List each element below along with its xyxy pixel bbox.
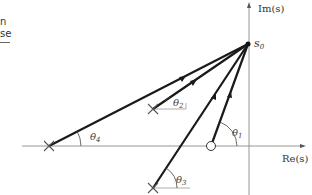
imaginary-axis — [247, 2, 251, 195]
theta3-label: θ3 — [176, 174, 187, 187]
real-axis-label: Re(s) — [282, 153, 308, 164]
theta4-arc — [77, 131, 81, 146]
vector-from-pole-4 — [49, 44, 248, 146]
theta4-label: θ4 — [90, 131, 101, 144]
vector-from-pole-3 — [153, 44, 248, 188]
real-axis — [22, 144, 306, 148]
vector-from-pole-2 — [153, 44, 248, 109]
s0-label: s0 — [254, 37, 265, 51]
pole-zero-diagram: Im(s) Re(s) θ4 θ2 θ1 θ3 s0 — [0, 0, 312, 195]
theta2-label: θ2 — [173, 97, 184, 110]
theta1-label: θ1 — [232, 127, 243, 140]
zero-marker — [207, 142, 216, 151]
s0-point — [246, 42, 251, 47]
imag-axis-label: Im(s) — [258, 3, 284, 14]
